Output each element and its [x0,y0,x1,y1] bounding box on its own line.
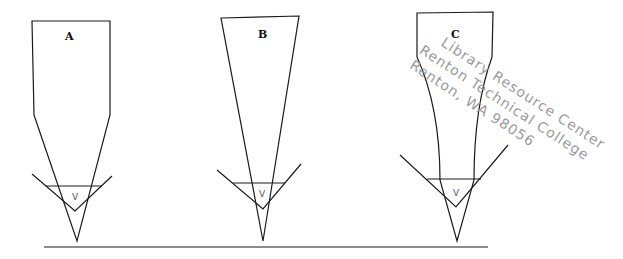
panel-a: A V [32,21,112,241]
panel-c-v-label: V [453,188,460,198]
panel-b-label: B [258,28,267,41]
panel-b-v-lines [217,164,301,209]
diagram-canvas: A V B V C V Library Resource Center Rent… [0,0,623,259]
panel-a-v-label: V [72,192,79,202]
watermark-line-2: Renton Technical College [417,42,593,164]
panel-b-v-label: V [259,189,266,199]
panel-b: B V [217,16,301,241]
library-watermark: Library Resource Center Renton Technical… [407,26,608,182]
diagram-svg: A V B V C V Library Resource Center Rent… [0,0,623,259]
panel-b-outline [221,16,299,241]
panel-a-label: A [64,30,74,43]
